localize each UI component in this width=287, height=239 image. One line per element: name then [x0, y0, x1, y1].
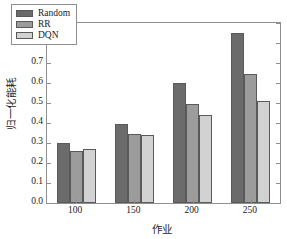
bar-rr-150	[128, 134, 141, 203]
y-axis-tick-mark	[276, 103, 280, 104]
x-axis-tick-label: 100	[68, 206, 82, 216]
legend-label-random: Random	[38, 9, 70, 19]
y-axis-tick-mark	[47, 123, 51, 124]
bar-dqn-100	[83, 149, 96, 203]
bar-dqn-150	[141, 135, 154, 203]
legend-item-dqn: DQN	[16, 30, 70, 41]
x-axis-title: 作业	[46, 221, 279, 236]
legend-swatch-random	[16, 10, 33, 17]
bar-dqn-200	[199, 115, 212, 203]
bar-random-100	[57, 143, 70, 203]
y-axis-tick-label: 0.6	[31, 77, 43, 87]
x-axis-tick-mark	[134, 199, 135, 203]
legend-label-rr: RR	[38, 20, 51, 30]
y-axis-tick-mark	[276, 63, 280, 64]
x-axis-tick-mark	[193, 199, 194, 203]
y-axis-tick-mark	[47, 83, 51, 84]
bar-chart-figure: 归一化能耗 0.00.10.20.30.40.50.60.70.80.9 100…	[0, 0, 287, 239]
y-axis-tick-mark	[276, 143, 280, 144]
y-axis-tick-mark	[276, 183, 280, 184]
chart-legend: RandomRRDQN	[11, 4, 77, 45]
legend-item-random: Random	[16, 8, 70, 19]
bar-random-250	[231, 33, 244, 203]
y-axis-tick-label: 0.1	[31, 177, 43, 187]
y-axis-tick-mark	[47, 163, 51, 164]
y-axis-tick-mark	[47, 183, 51, 184]
plot-area	[46, 22, 281, 204]
y-axis-tick-label: 0.0	[31, 197, 43, 207]
y-axis-tick-mark	[276, 83, 280, 84]
bar-random-150	[115, 124, 128, 203]
y-axis-tick-label: 0.3	[31, 137, 43, 147]
bar-rr-250	[244, 74, 257, 203]
y-axis-tick-mark	[276, 43, 280, 44]
y-axis-tick-mark	[47, 103, 51, 104]
y-axis-tick-label: 0.2	[31, 157, 43, 167]
y-axis-tick-mark	[47, 63, 51, 64]
y-axis-tick-mark	[276, 123, 280, 124]
bar-rr-100	[70, 151, 83, 203]
bar-dqn-250	[257, 101, 270, 203]
y-axis-title-text: 归一化能耗	[3, 77, 18, 129]
x-axis-tick-mark	[251, 199, 252, 203]
y-axis-tick-label: 0.5	[31, 97, 43, 107]
x-axis-tick-label: 200	[185, 206, 199, 216]
legend-label-dqn: DQN	[38, 31, 59, 41]
y-axis-tick-mark	[47, 143, 51, 144]
y-axis-tick-mark	[276, 163, 280, 164]
x-axis-tick-label: 250	[243, 206, 257, 216]
bar-random-200	[173, 83, 186, 203]
legend-swatch-dqn	[16, 32, 33, 39]
y-axis-tick-mark	[276, 23, 280, 24]
y-axis-tick-label: 0.7	[31, 57, 43, 67]
legend-item-rr: RR	[16, 19, 70, 30]
legend-swatch-rr	[16, 21, 33, 28]
x-axis-tick-label: 150	[126, 206, 140, 216]
x-axis-tick-mark	[76, 199, 77, 203]
x-axis-tick-labels: 100150200250	[46, 206, 279, 220]
bar-rr-200	[186, 104, 199, 203]
y-axis-tick-label: 0.4	[31, 117, 43, 127]
